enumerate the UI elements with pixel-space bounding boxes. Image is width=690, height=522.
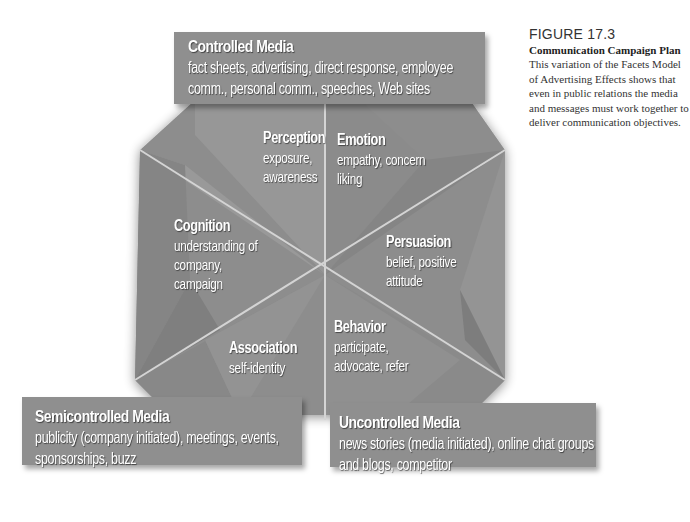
uncontrolled-media-box: Uncontrolled Media news stories (media i… [330,403,596,467]
association-line1: self-identity [229,358,295,377]
persuasion-line1: belief, positive [386,252,456,271]
facet-association: Association self-identity [229,338,314,377]
facet-cognition: Cognition understanding of company, camp… [174,216,281,293]
cognition-line2: company, [174,255,257,274]
facet-behavior: Behavior participate, advocate, refer [334,317,430,375]
controlled-media-box: Controlled Media fact sheets, advertisin… [174,32,485,104]
perception-title: Perception [263,128,325,148]
controlled-media-line2: comm., personal comm., speeches, Web sit… [188,78,420,99]
uncontrolled-media-title: Uncontrolled Media [339,413,550,433]
emotion-title: Emotion [337,130,428,150]
association-title: Association [229,338,297,358]
controlled-media-line1: fact sheets, advertising, direct respons… [188,57,420,78]
behavior-line2: advocate, refer [334,356,409,375]
behavior-line1: participate, [334,337,409,356]
facet-persuasion: Persuasion belief, positive attitude [386,232,476,290]
semicontrolled-media-line1: publicity (company initiated), meetings,… [35,427,243,448]
uncontrolled-media-line2: and blogs, competitor [339,454,539,475]
facet-perception: Perception exposure, awareness [263,128,341,186]
controlled-media-title: Controlled Media [188,37,432,57]
facet-emotion: Emotion empathy, concern liking [337,130,450,188]
figure-caption-text: This variation of the Facets Model of Ad… [529,57,689,130]
persuasion-title: Persuasion [386,232,458,252]
emotion-line2: liking [337,169,425,188]
perception-line1: exposure, [263,148,324,167]
cognition-line3: campaign [174,274,257,293]
uncontrolled-media-line1: news stories (media initiated), online c… [339,433,539,454]
figure-label: FIGURE 17.3 [529,26,689,43]
semicontrolled-media-line2: sponsorships, buzz [35,448,243,469]
communication-campaign-diagram: Controlled Media fact sheets, advertisin… [0,0,690,522]
figure-title: Communication Campaign Plan [529,43,689,57]
semicontrolled-media-box: Semicontrolled Media publicity (company … [22,397,302,465]
emotion-line1: empathy, concern [337,150,425,169]
cognition-line1: understanding of [174,236,257,255]
perception-line2: awareness [263,167,324,186]
cognition-title: Cognition [174,216,260,236]
persuasion-line2: attitude [386,271,456,290]
figure-caption: FIGURE 17.3 Communication Campaign Plan … [529,26,689,130]
behavior-title: Behavior [334,317,410,337]
semicontrolled-media-title: Semicontrolled Media [35,407,254,427]
